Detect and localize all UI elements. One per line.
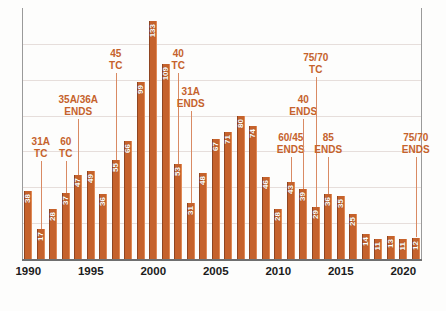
bar-value-label: 74 — [249, 129, 257, 138]
bar[interactable]: 99 — [137, 82, 145, 259]
bar-value-label: 133 — [149, 24, 157, 37]
bar-chart: 31ATC60TC35A/36AENDS45TC40TC31AENDS60/45… — [0, 0, 446, 311]
bar-value-label: 11 — [399, 242, 407, 250]
bar-value-label: 11 — [374, 242, 382, 250]
bar-value-label: 48 — [199, 176, 207, 185]
bar[interactable]: 11 — [374, 239, 382, 259]
bar[interactable]: 31 — [187, 203, 195, 259]
bar-slot: 25 — [347, 8, 360, 259]
bar-value-label: 43 — [287, 185, 295, 194]
bar-value-label: 29 — [312, 210, 320, 219]
bar-value-label: 53 — [174, 167, 182, 176]
bar[interactable]: 80 — [237, 116, 245, 259]
bar-value-label: 12 — [412, 241, 420, 250]
bar[interactable]: 36 — [324, 194, 332, 259]
bar[interactable]: 48 — [199, 173, 207, 259]
bar-slot: 71 — [222, 8, 235, 259]
bar[interactable]: 37 — [62, 193, 70, 259]
bar-slot: 38 — [22, 8, 35, 259]
bar-slot: 55 — [110, 8, 123, 259]
bar[interactable]: 14 — [362, 234, 370, 259]
bar[interactable]: 28 — [274, 209, 282, 259]
bar-value-label: 28 — [274, 212, 282, 221]
bar-value-label: 37 — [62, 196, 70, 205]
bar-slot: 11 — [372, 8, 385, 259]
bar[interactable]: 29 — [312, 207, 320, 259]
bar-slot: 31 — [185, 8, 198, 259]
bar-value-label: 99 — [137, 85, 145, 94]
bar[interactable]: 46 — [262, 177, 270, 259]
bar-value-label: 66 — [124, 144, 132, 153]
bar[interactable]: 71 — [224, 132, 232, 259]
bar[interactable]: 109 — [162, 64, 170, 259]
bar[interactable]: 55 — [112, 160, 120, 259]
bar-slot: 11 — [397, 8, 410, 259]
bar-value-label: 109 — [162, 67, 170, 80]
bar[interactable]: 12 — [412, 238, 420, 260]
bar[interactable]: 47 — [74, 175, 82, 259]
bar-value-label: 38 — [24, 194, 32, 203]
x-tick-1995: 1995 — [78, 265, 104, 277]
bar[interactable]: 36 — [99, 194, 107, 259]
plot-area: 31ATC60TC35A/36AENDS45TC40TC31AENDS60/45… — [22, 8, 422, 261]
bar-slot: 49 — [85, 8, 98, 259]
x-axis-line — [22, 259, 422, 261]
bar[interactable]: 11 — [399, 239, 407, 259]
bar-slot: 37 — [60, 8, 73, 259]
bar-value-label: 28 — [49, 212, 57, 221]
bar-value-label: 36 — [324, 197, 332, 206]
bar[interactable]: 25 — [349, 214, 357, 259]
bar-slot: 39 — [297, 8, 310, 259]
bar-slot: 14 — [360, 8, 373, 259]
x-axis-tick-labels: 1990199520002005201020152020 — [22, 265, 422, 285]
bar[interactable]: 74 — [249, 126, 257, 259]
bar[interactable]: 53 — [174, 164, 182, 259]
x-tick-2020: 2020 — [390, 265, 416, 277]
bar[interactable]: 66 — [124, 141, 132, 259]
bar-slot: 35 — [335, 8, 348, 259]
bar-slot: 28 — [47, 8, 60, 259]
bar[interactable]: 13 — [387, 236, 395, 259]
bar-slot: 80 — [235, 8, 248, 259]
bar-value-label: 35 — [337, 199, 345, 208]
bar-slot: 46 — [260, 8, 273, 259]
bar-value-label: 55 — [112, 163, 120, 172]
bar-slot: 74 — [247, 8, 260, 259]
bar[interactable]: 43 — [287, 182, 295, 259]
bar-slot: 36 — [322, 8, 335, 259]
bar-slot: 12 — [410, 8, 423, 259]
bar-slot: 133 — [147, 8, 160, 259]
x-tick-2000: 2000 — [140, 265, 166, 277]
bar[interactable]: 49 — [87, 171, 95, 259]
bar-value-label: 39 — [299, 192, 307, 201]
bar-value-label: 80 — [237, 119, 245, 128]
bar-slot: 67 — [210, 8, 223, 259]
bar-value-label: 25 — [349, 217, 357, 226]
x-tick-1990: 1990 — [15, 265, 41, 277]
bar-value-label: 67 — [212, 142, 220, 151]
bar-value-label: 71 — [224, 135, 232, 144]
bar-slot: 109 — [160, 8, 173, 259]
bar-value-label: 17 — [37, 232, 45, 241]
bar-slot: 66 — [122, 8, 135, 259]
bar-slot: 99 — [135, 8, 148, 259]
bar-slot: 48 — [197, 8, 210, 259]
bar[interactable]: 17 — [37, 229, 45, 259]
bar[interactable]: 39 — [299, 189, 307, 259]
bar-value-label: 49 — [87, 174, 95, 183]
x-tick-2005: 2005 — [203, 265, 229, 277]
bar[interactable]: 35 — [337, 196, 345, 259]
bar-slot: 43 — [285, 8, 298, 259]
bar[interactable]: 38 — [24, 191, 32, 259]
bar-value-label: 14 — [362, 237, 370, 246]
bar-slot: 36 — [97, 8, 110, 259]
bar[interactable]: 133 — [149, 21, 157, 259]
bar-slot: 47 — [72, 8, 85, 259]
bar-value-label: 36 — [99, 197, 107, 206]
bar[interactable]: 67 — [212, 139, 220, 259]
bar-value-label: 31 — [187, 206, 195, 215]
bar-slot: 13 — [385, 8, 398, 259]
bar[interactable]: 28 — [49, 209, 57, 259]
bar-value-label: 47 — [74, 178, 82, 187]
bar-slot: 28 — [272, 8, 285, 259]
